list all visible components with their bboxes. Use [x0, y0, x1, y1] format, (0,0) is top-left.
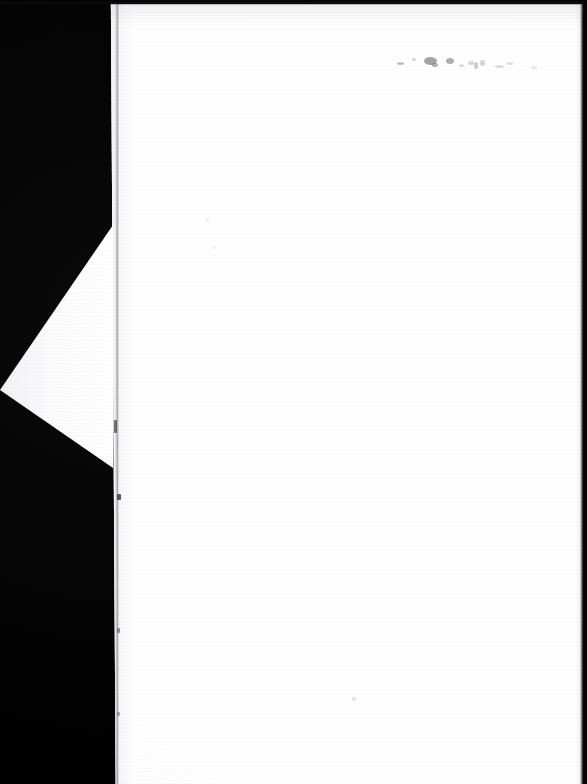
frame-edge-top [0, 0, 587, 5]
page-paper-tone [108, 4, 587, 784]
document-page [108, 4, 587, 784]
frame-edge-right [580, 0, 587, 784]
scanned-page-canvas [0, 0, 587, 784]
